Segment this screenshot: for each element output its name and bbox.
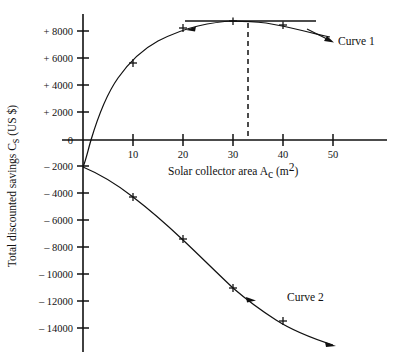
y-tick-label-neg8000: – 8000 — [43, 242, 73, 253]
y-tick-label-0: 0 — [68, 135, 73, 146]
y-tick-label-neg10000: – 10000 — [38, 269, 73, 280]
x-tick-label-10: 10 — [128, 149, 139, 160]
x-tick-label-50: 50 — [328, 149, 339, 160]
curve-2-label: Curve 2 — [287, 291, 324, 303]
y-tick-label-2000: + 2000 — [43, 107, 73, 118]
y-axis-title-main: Total discounted savings — [6, 153, 19, 267]
x-axis-title-main: Solar collector area — [168, 165, 257, 177]
curve-2-marker-40 — [279, 317, 287, 325]
x-tick-label-40: 40 — [278, 149, 289, 160]
y-tick-label-neg14000: – 14000 — [38, 323, 73, 334]
curve-1-annotation: Curve 1 — [307, 29, 375, 47]
svg-text:Solar collector area Ac (m2): Solar collector area Ac (m2) — [168, 161, 298, 180]
y-tick-label-4000: + 4000 — [43, 80, 73, 91]
svg-text:Total discounted savings Cs (U: Total discounted savings Cs (US $) — [6, 105, 21, 268]
x-axis-title-units-open: (m — [276, 165, 289, 178]
y-tick-label-8000: + 8000 — [43, 26, 73, 37]
curve-2-end-arrow — [325, 342, 336, 347]
y-axis-title: Total discounted savings Cs (US $) — [6, 105, 21, 268]
chart-figure: + 8000 + 6000 + 4000 + 2000 0 – 2000 – 4… — [0, 0, 399, 359]
y-tick-label-neg2000: – 2000 — [43, 161, 73, 172]
curve-1-label: Curve 1 — [338, 35, 375, 47]
y-tick-label-6000: + 6000 — [43, 53, 73, 64]
y-axis-title-units: (US $) — [6, 105, 19, 136]
x-axis-title-units-close: ) — [294, 165, 298, 178]
curve-1-marker-40 — [279, 22, 287, 30]
y-tick-label-neg12000: – 12000 — [38, 296, 73, 307]
y-tick-label-neg6000: – 6000 — [43, 215, 73, 226]
curve-1-marker-10 — [129, 59, 137, 67]
x-tick-label-20: 20 — [178, 149, 189, 160]
x-axis-title: Solar collector area Ac (m2) — [168, 161, 298, 180]
curve-2-path — [83, 167, 333, 345]
curve-1-markers — [129, 18, 287, 68]
y-tick-label-neg4000: – 4000 — [43, 188, 73, 199]
chart-canvas: + 8000 + 6000 + 4000 + 2000 0 – 2000 – 4… — [0, 0, 399, 359]
curve-1-path — [83, 21, 330, 167]
curve-2-direction-arrow — [246, 297, 256, 303]
x-tick-label-30: 30 — [228, 149, 239, 160]
